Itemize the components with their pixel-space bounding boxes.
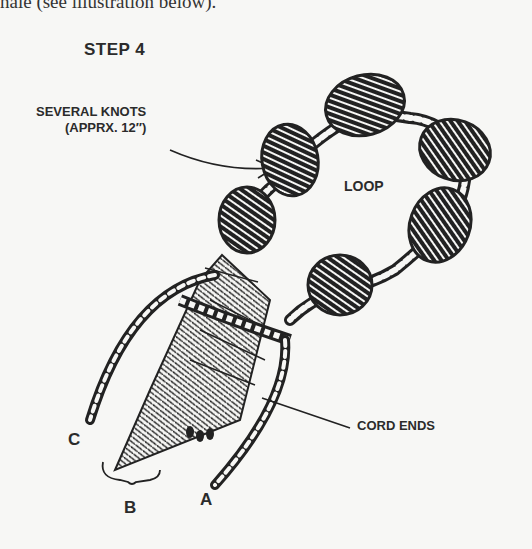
cord-ends-label: CORD ENDS bbox=[357, 418, 435, 433]
b-bracket bbox=[103, 462, 160, 484]
knots-label-line1: SEVERAL KNOTS bbox=[36, 104, 146, 120]
knots-label: SEVERAL KNOTS (APPRX. 12″) bbox=[36, 104, 146, 136]
cord-a-label: A bbox=[200, 490, 212, 510]
cord-b-label: B bbox=[124, 498, 136, 518]
knots-arrow bbox=[170, 150, 274, 178]
knot bbox=[308, 255, 372, 315]
step-title: STEP 4 bbox=[84, 40, 145, 60]
cord-c-label: C bbox=[68, 430, 80, 450]
cord-ends-pointer bbox=[262, 398, 350, 428]
loop-label: LOOP bbox=[344, 178, 384, 194]
knot bbox=[219, 187, 275, 253]
knots-label-line2: (APPRX. 12″) bbox=[36, 120, 146, 136]
macrame-illustration bbox=[0, 0, 532, 549]
